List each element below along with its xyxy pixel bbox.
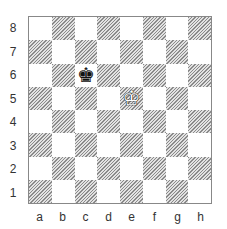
square-f1 [143,180,166,203]
square-c5 [75,87,98,110]
square-c3 [75,133,98,156]
square-a1 [29,180,52,203]
square-e3 [120,133,143,156]
square-d8 [97,17,120,40]
square-c1 [75,180,98,203]
square-b3 [52,133,75,156]
square-g7 [166,40,189,63]
square-c2 [75,157,98,180]
square-g3 [166,133,189,156]
square-b1 [52,180,75,203]
square-b7 [52,40,75,63]
square-a6 [29,64,52,87]
rank-label-2: 2 [6,162,20,176]
square-h5 [188,87,211,110]
square-e1 [120,180,143,203]
square-c8 [75,17,98,40]
square-g1 [166,180,189,203]
square-f2 [143,157,166,180]
square-g8 [166,17,189,40]
square-g4 [166,110,189,133]
square-e6 [120,64,143,87]
black-king-icon: ♚ [77,65,95,85]
square-g2 [166,157,189,180]
square-c7 [75,40,98,63]
square-f5 [143,87,166,110]
square-b4 [52,110,75,133]
square-b8 [52,17,75,40]
square-f3 [143,133,166,156]
square-d7 [97,40,120,63]
square-f7 [143,40,166,63]
rank-label-3: 3 [6,139,20,153]
file-label-h: h [189,210,212,224]
square-f4 [143,110,166,133]
square-h2 [188,157,211,180]
rank-label-5: 5 [6,92,20,106]
square-e2 [120,157,143,180]
square-h1 [188,180,211,203]
square-g5 [166,87,189,110]
square-e5: ♔ [120,87,143,110]
square-e8 [120,17,143,40]
square-a5 [29,87,52,110]
white-king-icon: ♔ [122,88,140,108]
square-a7 [29,40,52,63]
file-label-d: d [97,210,120,224]
square-h6 [188,64,211,87]
file-label-e: e [120,210,143,224]
square-a3 [29,133,52,156]
square-e7 [120,40,143,63]
square-h4 [188,110,211,133]
chess-board: ♚♔ [28,16,212,204]
square-a4 [29,110,52,133]
square-h7 [188,40,211,63]
square-h8 [188,17,211,40]
square-h3 [188,133,211,156]
rank-label-7: 7 [6,45,20,59]
square-d6 [97,64,120,87]
square-f6 [143,64,166,87]
file-label-f: f [143,210,166,224]
square-c6: ♚ [75,64,98,87]
file-label-c: c [74,210,97,224]
file-label-a: a [28,210,51,224]
rank-label-8: 8 [6,21,20,35]
square-d1 [97,180,120,203]
square-b5 [52,87,75,110]
rank-label-4: 4 [6,115,20,129]
square-b6 [52,64,75,87]
square-g6 [166,64,189,87]
square-e4 [120,110,143,133]
rank-label-1: 1 [6,186,20,200]
square-a2 [29,157,52,180]
square-a8 [29,17,52,40]
file-label-g: g [166,210,189,224]
square-f8 [143,17,166,40]
square-d3 [97,133,120,156]
file-label-b: b [51,210,74,224]
rank-label-6: 6 [6,68,20,82]
square-d2 [97,157,120,180]
square-d5 [97,87,120,110]
square-d4 [97,110,120,133]
square-b2 [52,157,75,180]
square-c4 [75,110,98,133]
